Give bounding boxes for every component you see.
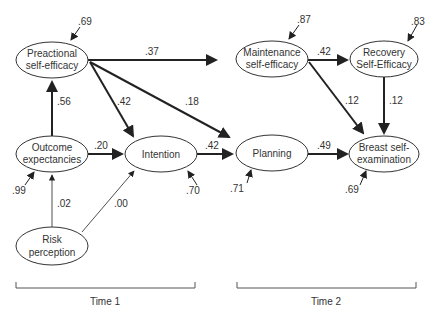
node-label: examination xyxy=(357,154,411,165)
residual-bse: .69 xyxy=(345,184,359,195)
residual-arrow-outcome xyxy=(25,172,34,185)
node-label: Recovery xyxy=(363,47,405,58)
residual-recovery: .83 xyxy=(411,16,425,27)
node-risk-perception: Risk perception xyxy=(16,227,88,265)
time-1-label: Time 1 xyxy=(90,296,121,307)
node-label: Self-Efficacy xyxy=(356,59,411,70)
node-label: Preactional xyxy=(27,48,77,59)
coef-outcome-preactional: .56 xyxy=(57,96,71,107)
coef-preactional-planning: .18 xyxy=(185,96,199,107)
residual-arrow-maintenance xyxy=(289,25,299,39)
node-preactional-self-efficacy: Preactional self-efficacy xyxy=(16,42,88,78)
coef-risk-outcome: .02 xyxy=(57,198,71,209)
node-breast-self-examination: Breast self- examination xyxy=(349,136,419,172)
node-outcome-expectancies: Outcome expectancies xyxy=(16,136,88,172)
node-label: perception xyxy=(29,247,76,258)
coef-risk-intention: .00 xyxy=(114,198,128,209)
residual-arrow-planning xyxy=(247,170,251,183)
node-label: Intention xyxy=(142,149,180,160)
node-planning: Planning xyxy=(236,135,308,171)
coef-preactional-intention: .42 xyxy=(117,96,131,107)
residual-maintenance: .87 xyxy=(297,14,311,25)
node-label: self-efficacy xyxy=(246,59,299,70)
residual-outcome: .99 xyxy=(12,185,26,196)
node-intention: Intention xyxy=(125,136,197,172)
path-diagram: Preactional self-efficacy Outcome expect… xyxy=(0,0,435,320)
node-label: expectancies xyxy=(23,154,81,165)
residual-intention: .70 xyxy=(186,185,200,196)
residual-arrow-bse xyxy=(360,171,366,185)
coef-maintenance-bse: .12 xyxy=(345,95,359,106)
residual-arrow-intention xyxy=(188,171,197,185)
coef-intention-planning: .42 xyxy=(205,140,219,151)
node-label: self-efficacy xyxy=(26,60,79,71)
node-label: Risk xyxy=(42,234,62,245)
time-bracket-1 xyxy=(16,282,195,288)
coef-outcome-intention: .20 xyxy=(94,140,108,151)
node-maintenance-self-efficacy: Maintenance self-efficacy xyxy=(236,41,308,77)
coef-preactional-maintenance: .37 xyxy=(145,46,159,57)
node-label: Maintenance xyxy=(243,47,301,58)
residual-preactional: .69 xyxy=(78,16,92,27)
residual-planning: .71 xyxy=(230,183,244,194)
node-label: Planning xyxy=(253,148,292,159)
coef-planning-bse: .49 xyxy=(317,140,331,151)
node-label: Outcome xyxy=(32,142,73,153)
residual-arrow-recovery xyxy=(408,25,417,41)
node-label: Breast self- xyxy=(359,142,410,153)
node-recovery-self-efficacy: Recovery Self-Efficacy xyxy=(350,41,418,77)
coef-recovery-bse: .12 xyxy=(389,95,403,106)
coef-maintenance-recovery: .42 xyxy=(317,46,331,57)
time-2-label: Time 2 xyxy=(311,296,342,307)
time-bracket-2 xyxy=(237,282,416,288)
residual-arrow-preactional xyxy=(71,27,80,40)
